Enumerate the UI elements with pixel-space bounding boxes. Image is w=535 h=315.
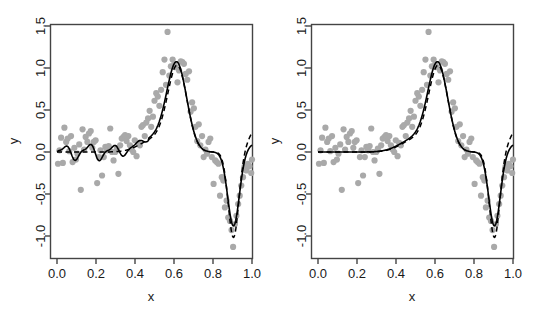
x-axis-ticks-right — [318, 259, 513, 265]
scatter-point — [360, 172, 366, 178]
scatter-point — [125, 133, 131, 139]
scatter-points-right — [316, 29, 516, 250]
scatter-point — [186, 68, 192, 74]
scatter-point — [147, 108, 153, 114]
scatter-point — [115, 171, 121, 177]
scatter-point — [509, 170, 515, 176]
scatter-point — [367, 143, 373, 149]
scatter-point — [248, 170, 254, 176]
scatter-point — [191, 105, 197, 111]
scatter-point — [160, 69, 166, 75]
scatter-point — [107, 125, 113, 131]
plot-frame-right — [312, 25, 514, 259]
svg-text:-0.5: -0.5 — [33, 183, 48, 205]
scatter-point — [155, 93, 161, 99]
scatter-point — [161, 57, 167, 63]
scatter-point — [408, 108, 414, 114]
scatter-point — [442, 61, 448, 67]
svg-text:0.4: 0.4 — [126, 266, 144, 281]
svg-text:0.5: 0.5 — [33, 101, 48, 119]
scatter-point — [460, 133, 466, 139]
scatter-point — [349, 128, 355, 134]
scatter-points-left — [55, 29, 255, 250]
scatter-point — [476, 161, 482, 167]
scatter-point — [207, 135, 213, 141]
scatter-point — [60, 160, 66, 166]
scatter-point — [142, 133, 148, 139]
scatter-point — [421, 69, 427, 75]
svg-text:0.4: 0.4 — [387, 266, 405, 281]
scatter-point — [88, 128, 94, 134]
scatter-point — [422, 57, 428, 63]
scatter-point — [199, 133, 205, 139]
scatter-point — [321, 160, 327, 166]
scatter-point — [99, 172, 105, 178]
scatter-point — [340, 126, 346, 132]
scatter-point — [409, 124, 415, 130]
scatter-point — [329, 133, 335, 139]
svg-text:0.2: 0.2 — [348, 266, 366, 281]
scatter-point — [222, 204, 228, 210]
scatter-point — [249, 156, 255, 162]
scatter-point — [376, 171, 382, 177]
scatter-point — [445, 77, 451, 83]
scatter-point — [386, 133, 392, 139]
scatter-point — [156, 103, 162, 109]
figure-two-panel-scatter-fit: 1.5 1.0 0.5 0.0 -0.5 -1.0 0.0 0.2 0.4 0.… — [0, 0, 535, 315]
scatter-point — [322, 125, 328, 131]
scatter-point — [450, 99, 456, 105]
svg-text:0.8: 0.8 — [204, 266, 222, 281]
scatter-point — [368, 125, 374, 131]
scatter-point — [196, 121, 202, 127]
svg-text:0.0: 0.0 — [33, 143, 48, 161]
scatter-point — [362, 154, 368, 160]
svg-text:-0.5: -0.5 — [294, 183, 309, 205]
svg-text:-1.0: -1.0 — [294, 225, 309, 247]
y-axis-title-right: y — [267, 137, 282, 144]
scatter-point — [158, 87, 164, 93]
scatter-point — [76, 141, 82, 147]
y-tick-labels-left: 1.5 1.0 0.5 0.0 -0.5 -1.0 — [33, 17, 48, 247]
scatter-point — [483, 204, 489, 210]
scatter-point — [110, 157, 116, 163]
scatter-point — [93, 137, 99, 143]
scatter-point — [78, 187, 84, 193]
y-axis-title-left: y — [6, 137, 21, 144]
scatter-point — [411, 114, 417, 120]
svg-text:0.8: 0.8 — [465, 266, 483, 281]
scatter-point — [468, 135, 474, 141]
x-tick-labels-left: 0.0 0.2 0.4 0.6 0.8 1.0 — [48, 266, 261, 281]
scatter-point — [417, 103, 423, 109]
svg-text:0.2: 0.2 — [87, 266, 105, 281]
scatter-point — [471, 181, 477, 187]
scatter-point — [184, 77, 190, 83]
x-axis-title-right: x — [409, 289, 416, 304]
scatter-point — [230, 244, 236, 250]
plot-frame-left — [51, 25, 253, 259]
scatter-point — [419, 87, 425, 93]
scatter-point — [246, 163, 252, 169]
y-tick-labels-right: 1.5 1.0 0.5 0.0 -0.5 -1.0 — [294, 17, 309, 247]
scatter-point — [354, 137, 360, 143]
x-tick-labels-right: 0.0 0.2 0.4 0.6 0.8 1.0 — [309, 266, 522, 281]
scatter-point — [337, 141, 343, 147]
scatter-point — [181, 61, 187, 67]
scatter-point — [58, 135, 64, 141]
svg-text:0.0: 0.0 — [309, 266, 327, 281]
scatter-point — [394, 153, 400, 159]
scatter-point — [452, 105, 458, 111]
scatter-point — [133, 153, 139, 159]
svg-text:1.5: 1.5 — [294, 17, 309, 35]
panel-right-plot: 1.5 1.0 0.5 0.0 -0.5 -1.0 0.0 0.2 0.4 0.… — [267, 0, 534, 315]
scatter-point — [457, 121, 463, 127]
svg-text:0.0: 0.0 — [294, 143, 309, 161]
scatter-point — [334, 156, 340, 162]
scatter-point — [210, 181, 216, 187]
svg-text:1.0: 1.0 — [294, 59, 309, 77]
scatter-point — [350, 145, 356, 151]
scatter-point — [148, 124, 154, 130]
scatter-point — [150, 114, 156, 120]
svg-text:0.6: 0.6 — [426, 266, 444, 281]
scatter-point — [447, 68, 453, 74]
scatter-point — [339, 187, 345, 193]
